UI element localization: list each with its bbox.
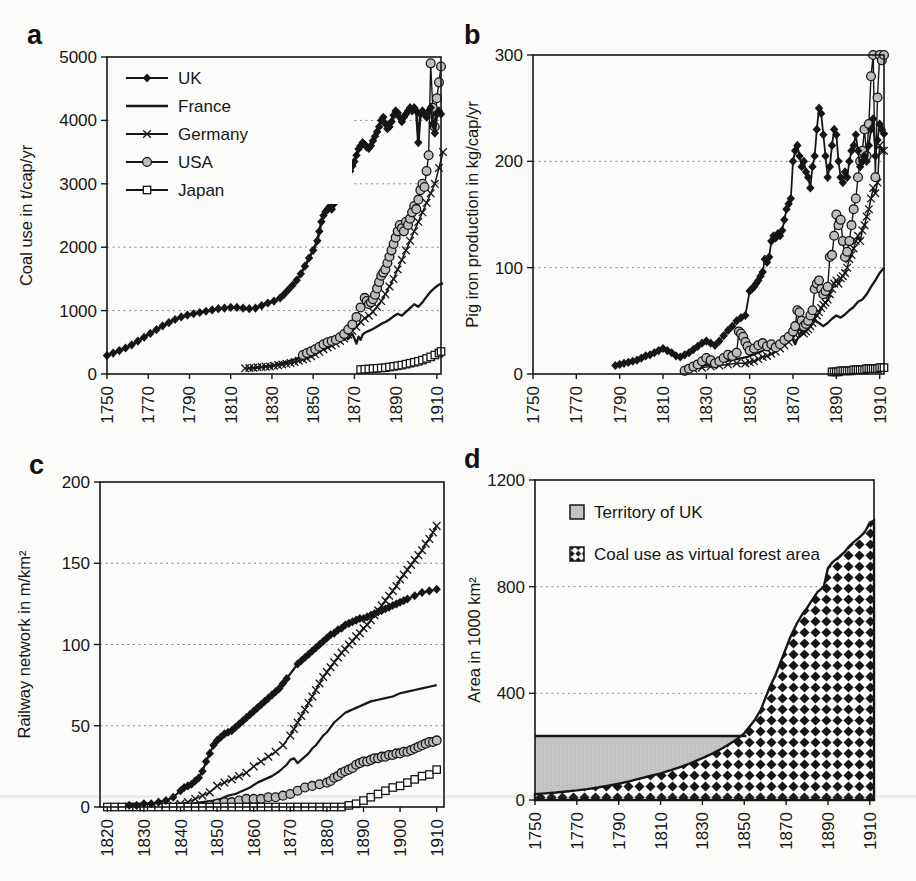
panel-a-plot: 0100020003000400050001750177017901810183…: [0, 0, 458, 440]
svg-text:1910: 1910: [428, 819, 447, 857]
svg-text:Japan: Japan: [178, 181, 224, 200]
svg-text:100: 100: [62, 636, 90, 655]
y-axis-c: 050100150200: [62, 473, 100, 817]
svg-text:100: 100: [495, 259, 523, 278]
svg-text:1830: 1830: [697, 386, 716, 424]
x-axis-d: 175017701790181018301850187018901910: [526, 800, 880, 850]
legend-item-coal-use-as-virtual-forest-area: Coal use as virtual forest area: [570, 545, 820, 564]
svg-text:0: 0: [81, 798, 90, 817]
x-axis-b: 175017701790181018301850187018901910: [524, 374, 890, 424]
y-axis-title-b: Pig iron production in kg/cap/yr: [463, 101, 481, 328]
svg-text:1820: 1820: [98, 819, 117, 857]
panel-c-plot: 0501001502001820183018401850186018701880…: [0, 440, 458, 881]
svg-text:4000: 4000: [59, 111, 97, 130]
svg-text:5000: 5000: [59, 48, 97, 67]
svg-text:800: 800: [497, 578, 525, 597]
svg-text:1790: 1790: [611, 386, 630, 424]
svg-text:400: 400: [497, 684, 525, 703]
svg-text:Territory of UK: Territory of UK: [594, 503, 703, 522]
svg-text:1890: 1890: [827, 386, 846, 424]
series-b-france: [683, 268, 885, 370]
svg-text:1870: 1870: [784, 386, 803, 424]
svg-text:France: France: [178, 97, 231, 116]
panel-b-plot: 0100200300175017701790181018301850187018…: [458, 0, 916, 440]
svg-text:1790: 1790: [610, 812, 629, 850]
legend-a: UKFranceGermanyUSAJapan: [112, 62, 352, 204]
svg-text:UK: UK: [178, 69, 202, 88]
x-axis-a: 175017701790181018301850187018901910: [98, 374, 447, 424]
svg-text:3000: 3000: [59, 175, 97, 194]
panel-d-plot: 0400800120017501770179018101830185018701…: [458, 440, 916, 881]
series-c-usa: [205, 736, 441, 810]
svg-text:Coal use as virtual forest are: Coal use as virtual forest area: [594, 545, 820, 564]
svg-text:1750: 1750: [526, 812, 545, 850]
svg-text:1870: 1870: [777, 812, 796, 850]
svg-text:1860: 1860: [245, 819, 264, 857]
svg-text:1880: 1880: [318, 819, 337, 857]
four-panel-figure: a b c d 01000200030004000500017501770179…: [0, 0, 916, 881]
svg-text:1770: 1770: [568, 812, 587, 850]
svg-text:1770: 1770: [139, 386, 158, 424]
svg-text:1910: 1910: [428, 386, 447, 424]
svg-text:1200: 1200: [487, 471, 525, 490]
svg-text:1900: 1900: [391, 819, 410, 857]
gridlines-c: [100, 563, 444, 726]
svg-text:1750: 1750: [524, 386, 543, 424]
svg-text:1890: 1890: [354, 819, 373, 857]
svg-text:1810: 1810: [654, 386, 673, 424]
svg-text:300: 300: [495, 46, 523, 65]
svg-text:1830: 1830: [693, 812, 712, 850]
svg-text:1910: 1910: [861, 812, 880, 850]
svg-text:1870: 1870: [345, 386, 364, 424]
scan-artifact-streak: [0, 795, 916, 798]
svg-text:1750: 1750: [98, 386, 117, 424]
legend-item-territory-of-uk: Territory of UK: [570, 503, 703, 522]
svg-text:1850: 1850: [735, 812, 754, 850]
svg-text:200: 200: [495, 152, 523, 171]
svg-text:0: 0: [514, 365, 523, 384]
svg-text:1850: 1850: [741, 386, 760, 424]
svg-text:1890: 1890: [387, 386, 406, 424]
svg-text:0: 0: [88, 365, 97, 384]
y-axis-title-c: Railway network in m/km²: [15, 550, 33, 738]
y-axis-title-a: Coal use in t/cap/yr: [17, 144, 35, 286]
svg-text:1000: 1000: [59, 302, 97, 321]
svg-text:1810: 1810: [222, 386, 241, 424]
svg-text:1830: 1830: [263, 386, 282, 424]
svg-text:50: 50: [71, 717, 90, 736]
y-axis-b: 0100200300: [495, 46, 533, 384]
svg-text:1830: 1830: [135, 819, 154, 857]
svg-text:1840: 1840: [172, 819, 191, 857]
x-axis-c: 1820183018401850186018701880189019001910: [98, 807, 446, 857]
series-group-b: [611, 51, 888, 376]
series-b-usa: [680, 51, 888, 376]
svg-text:1790: 1790: [180, 386, 199, 424]
svg-text:1850: 1850: [304, 386, 323, 424]
series-a-japan: [357, 348, 445, 373]
y-axis-d: 04008001200: [487, 471, 535, 810]
svg-text:2000: 2000: [59, 238, 97, 257]
svg-text:1810: 1810: [652, 812, 671, 850]
svg-text:200: 200: [62, 473, 90, 492]
svg-text:USA: USA: [178, 153, 214, 172]
svg-text:1850: 1850: [208, 819, 227, 857]
svg-text:1890: 1890: [819, 812, 838, 850]
legend-d: Territory of UKCoal use as virtual fores…: [570, 503, 820, 564]
svg-text:0: 0: [516, 791, 525, 810]
svg-text:150: 150: [62, 554, 90, 573]
y-axis-a: 010002000300040005000: [59, 48, 107, 384]
svg-text:1910: 1910: [871, 386, 890, 424]
series-c-germany: [169, 522, 440, 809]
svg-text:1870: 1870: [281, 819, 300, 857]
svg-text:1770: 1770: [567, 386, 586, 424]
y-axis-title-d: Area in 1000 km²: [465, 577, 483, 703]
svg-text:Germany: Germany: [178, 125, 248, 144]
series-group-c: [104, 522, 441, 811]
